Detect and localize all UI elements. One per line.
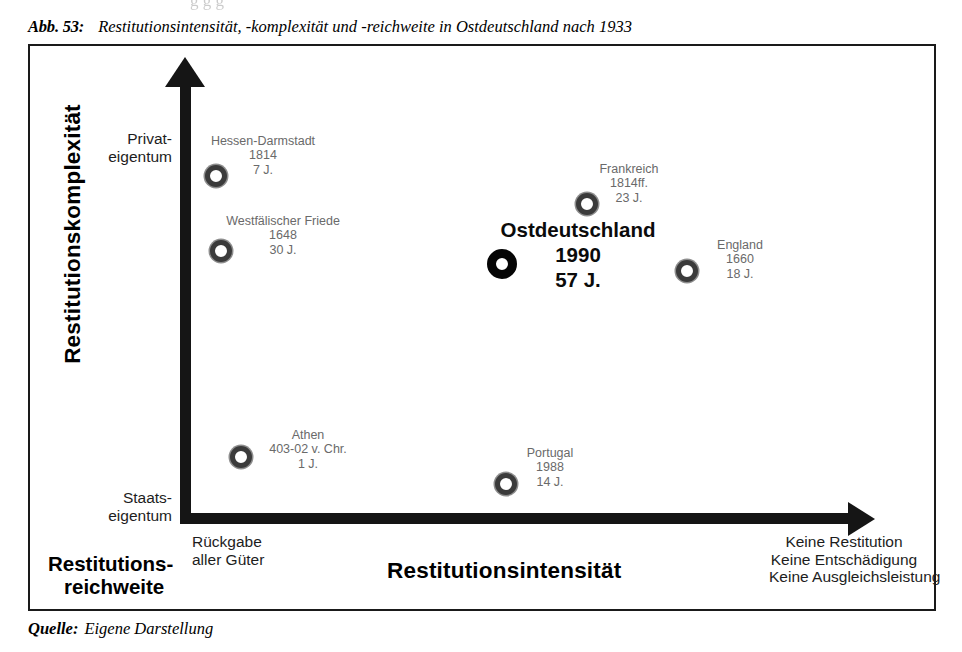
- data-point-label: Hessen-Darmstadt 1814 7 J.: [198, 134, 328, 177]
- source-label: Quelle:: [28, 619, 78, 638]
- data-point-label: Ostdeutschland 1990 57 J.: [470, 217, 686, 292]
- data-point-name: Athen: [234, 428, 382, 442]
- y-axis-bottom-label: Staats- eigentum: [70, 489, 172, 524]
- data-point-label: Athen 403-02 v. Chr. 1 J.: [234, 428, 382, 471]
- data-point-name: England: [685, 238, 795, 252]
- source-line: Quelle:Eigene Darstellung: [28, 619, 213, 639]
- x-axis-line: [180, 513, 854, 524]
- x-axis-left-label: Rückgabe aller Güter: [192, 533, 264, 568]
- figure-caption: Abb. 53:Restitutionsintensität, -komplex…: [28, 17, 938, 39]
- x-axis-right-label: Keine Restitution Keine Entschädigung Ke…: [769, 533, 919, 586]
- x-axis-right-label-line2: Keine Entschädigung: [769, 551, 919, 569]
- data-point-duration: 1 J.: [234, 457, 382, 471]
- bleed-text: g g g: [190, 0, 224, 10]
- source-text: Eigene Darstellung: [84, 619, 213, 638]
- x-axis-arrow-icon: [848, 502, 875, 536]
- scope-axis-title-line1: Restitutions-: [48, 552, 173, 575]
- data-point-name: Portugal: [494, 446, 606, 460]
- y-axis-top-label: Privat- eigentum: [74, 130, 172, 165]
- data-point-year: 1648: [210, 228, 356, 242]
- chart-frame: Restitutionskomplexität Restitutionsinte…: [28, 44, 936, 611]
- data-point-name: Westfälischer Friede: [210, 214, 356, 228]
- data-point-duration: 14 J.: [494, 475, 606, 489]
- data-point-duration: 57 J.: [470, 267, 686, 292]
- data-point-label: Portugal 1988 14 J.: [494, 446, 606, 489]
- x-axis-left-label-line1: Rückgabe: [192, 533, 264, 551]
- data-point-name: Ostdeutschland: [470, 217, 686, 242]
- y-axis-line: [180, 84, 191, 524]
- y-axis-top-label-line2: eigentum: [74, 148, 172, 166]
- y-axis-title: Restitutionskomplexität: [60, 24, 86, 444]
- x-axis-right-label-line1: Keine Restitution: [769, 533, 919, 551]
- data-point-year: 1814ff.: [569, 176, 689, 190]
- y-axis-arrow-icon: [165, 57, 205, 87]
- data-point-year: 403-02 v. Chr.: [234, 442, 382, 456]
- y-axis-top-label-line1: Privat-: [74, 130, 172, 148]
- page-bleed-artifact: g g g: [0, 0, 962, 10]
- scope-axis-title-line2: reichweite: [48, 576, 208, 599]
- x-axis-title: Restitutionsintensität: [387, 558, 621, 584]
- figure-caption-text: Restitutionsintensität, -komplexität und…: [98, 17, 632, 36]
- data-point-label: England 1660 18 J.: [685, 238, 795, 281]
- data-point-label: Westfälischer Friede 1648 30 J.: [210, 214, 356, 257]
- data-point-year: 1988: [494, 460, 606, 474]
- data-point-duration: 30 J.: [210, 243, 356, 257]
- scope-axis-title: Restitutions- reichweite: [48, 553, 208, 599]
- data-point-year: 1660: [685, 252, 795, 266]
- data-point-name: Frankreich: [569, 162, 689, 176]
- y-axis-bottom-label-line1: Staats-: [70, 489, 172, 507]
- x-axis-left-label-line2: aller Güter: [192, 551, 264, 569]
- data-point-duration: 23 J.: [569, 191, 689, 205]
- data-point-duration: 18 J.: [685, 267, 795, 281]
- data-point-year: 1814: [198, 148, 328, 162]
- y-axis-bottom-label-line2: eigentum: [70, 507, 172, 525]
- data-point-label: Frankreich 1814ff. 23 J.: [569, 162, 689, 205]
- data-point-year: 1990: [470, 242, 686, 267]
- x-axis-right-label-line3: Keine Ausgleichsleistung: [769, 568, 919, 586]
- data-point-duration: 7 J.: [198, 163, 328, 177]
- data-point-name: Hessen-Darmstadt: [198, 134, 328, 148]
